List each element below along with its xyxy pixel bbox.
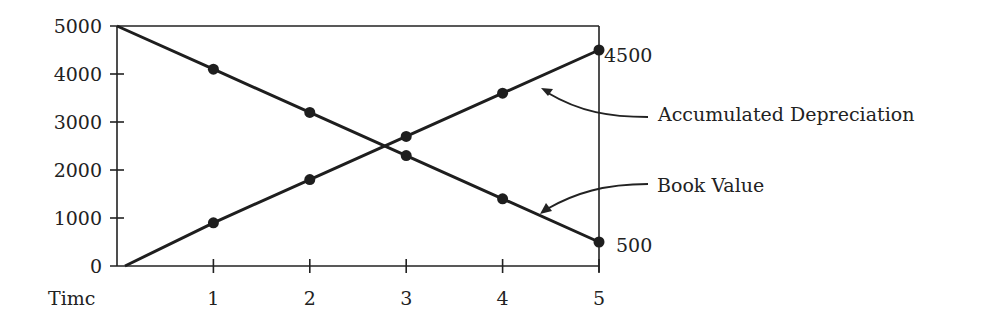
data-point-book-value [304, 107, 315, 118]
annotation-book-value: Book Value [540, 174, 764, 214]
label-accumulated-depreciation: Accumulated Depreciation [657, 103, 914, 125]
x-tick-label: 1 [207, 287, 219, 309]
data-point-accumulated-depreciation [497, 88, 508, 99]
end-value-label-4500: 4500 [604, 44, 652, 66]
end-value-label-500: 500 [616, 234, 652, 256]
y-axis-ticks: 010002000300040005000 [54, 15, 124, 277]
curved-arrow-icon [547, 184, 648, 209]
arrowhead-icon [540, 203, 552, 214]
y-tick-label: 3000 [54, 111, 102, 133]
data-point-book-value [497, 193, 508, 204]
y-tick-label: 5000 [54, 15, 102, 37]
label-book-value: Book Value [657, 174, 764, 196]
x-tick-label: 3 [400, 287, 412, 309]
data-point-book-value [208, 64, 219, 75]
x-tick-label: 4 [497, 287, 509, 309]
y-tick-label: 4000 [54, 63, 102, 85]
series-layer [117, 26, 605, 266]
data-point-book-value [594, 237, 605, 248]
data-point-accumulated-depreciation [304, 174, 315, 185]
x-tick-label: 5 [593, 287, 605, 309]
series-line-book-value [117, 26, 599, 242]
data-point-accumulated-depreciation [401, 131, 412, 142]
x-axis-title: Timc [48, 287, 95, 309]
x-tick-label: 2 [304, 287, 316, 309]
curved-arrow-icon [548, 93, 648, 117]
annotation-accumulated-depreciation: Accumulated Depreciation [541, 88, 914, 125]
y-tick-label: 2000 [54, 159, 102, 181]
y-tick-label: 1000 [54, 207, 102, 229]
y-tick-label: 0 [90, 255, 102, 277]
depreciation-chart: 010002000300040005000 12345 Accumulated … [0, 0, 994, 322]
data-point-book-value [401, 150, 412, 161]
series-line-accumulated-depreciation [125, 50, 599, 266]
data-point-accumulated-depreciation [208, 217, 219, 228]
data-point-accumulated-depreciation [594, 45, 605, 56]
plot-frame [110, 26, 599, 272]
